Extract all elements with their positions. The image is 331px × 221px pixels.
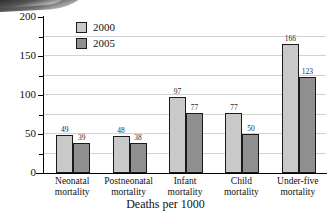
bar-2005-neonatal-mortality — [73, 143, 90, 173]
bar-value-label: 48 — [109, 127, 134, 135]
y-axis-tick-label: 200 — [0, 11, 36, 22]
category-label-line1: Under-five — [266, 176, 330, 187]
y-axis-minor-tick — [39, 37, 44, 38]
y-axis-tick-label-wrap: 0 — [0, 167, 36, 178]
x-axis-category-label: Neonatalmortality — [40, 176, 104, 197]
x-axis-category-label: Under-fivemortality — [266, 176, 330, 197]
legend-label-2005: 2005 — [93, 37, 115, 49]
bar-value-label: 38 — [126, 134, 151, 142]
legend-swatch-2000 — [76, 22, 87, 33]
bar-2005-under-five-mortality — [299, 77, 316, 173]
y-axis-tick-label: 50 — [0, 128, 36, 139]
y-axis-major-tick — [38, 95, 44, 96]
bar-2005-postneonatal-mortality — [130, 143, 147, 173]
y-axis-tick-label-wrap: 150 — [0, 50, 36, 61]
bar-2000-child-mortality — [225, 113, 242, 173]
y-axis-minor-tick — [39, 115, 44, 116]
bar-2005-child-mortality — [242, 134, 259, 173]
category-label-line1: Infant — [153, 176, 217, 187]
legend: 2000 2005 — [76, 19, 140, 51]
y-axis-major-tick — [38, 134, 44, 135]
x-axis-title: Deaths per 1000 — [0, 198, 331, 211]
legend-label-2000: 2000 — [93, 21, 115, 33]
category-label-line2: mortality — [209, 187, 273, 198]
bar-value-label: 77 — [182, 104, 207, 112]
bar-2000-under-five-mortality — [282, 44, 299, 173]
category-label-line1: Neonatal — [40, 176, 104, 187]
category-label-line1: Child — [209, 176, 273, 187]
y-axis-minor-tick — [39, 154, 44, 155]
y-axis-tick-label-wrap: 50 — [0, 128, 36, 139]
category-label-line2: mortality — [153, 187, 217, 198]
bar-value-label: 50 — [238, 125, 263, 133]
bar-value-label: 97 — [165, 88, 190, 96]
category-label-line2: mortality — [266, 187, 330, 198]
legend-item-2000: 2000 — [76, 19, 140, 35]
bar-value-label: 49 — [52, 126, 77, 134]
x-axis-category-label: Childmortality — [209, 176, 273, 197]
x-axis-line — [36, 173, 327, 174]
x-axis-category-label: Infantmortality — [153, 176, 217, 197]
category-label-line2: mortality — [96, 187, 160, 198]
y-axis-major-tick — [38, 17, 44, 18]
y-axis-tick-label: 0 — [0, 167, 36, 178]
category-label-line1: Postneonatal — [96, 176, 160, 187]
y-axis-tick-label-wrap: 100 — [0, 89, 36, 100]
x-axis-category-label: Postneonatalmortality — [96, 176, 160, 197]
y-axis-minor-tick — [39, 76, 44, 77]
y-axis-major-tick — [38, 56, 44, 57]
bar-value-label: 77 — [221, 104, 246, 112]
y-axis-tick-label: 100 — [0, 89, 36, 100]
bar-value-label: 39 — [69, 134, 94, 142]
category-label-line2: mortality — [40, 187, 104, 198]
y-axis-major-tick — [38, 173, 44, 174]
bar-value-label: 166 — [278, 35, 303, 43]
y-axis-tick-label-wrap: 200 — [0, 11, 36, 22]
bar-2005-infant-mortality — [186, 113, 203, 173]
bar-value-label: 123 — [295, 68, 320, 76]
legend-item-2005: 2005 — [76, 35, 140, 51]
y-axis-tick-label: 150 — [0, 50, 36, 61]
chart-figure: 050100150200 2000 2005 Neonatalmortality… — [0, 0, 331, 221]
legend-swatch-2005 — [76, 38, 87, 49]
